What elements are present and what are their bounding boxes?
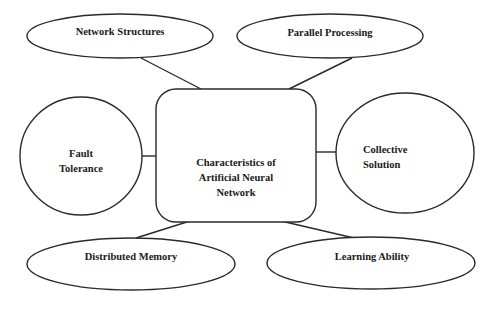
center-title-line-2: Artificial Neural (166, 170, 306, 185)
center-title: Characteristics of Artificial Neural Net… (166, 155, 306, 200)
node-network-structures-label: Network Structures (60, 24, 180, 39)
connector-distributed-memory (136, 221, 190, 238)
fault-tolerance-line-2: Tolerance (41, 161, 121, 176)
node-collective-solution-label: Collective Solution (363, 142, 443, 172)
ann-characteristics-diagram: Network Structures Parallel Processing F… (0, 0, 497, 309)
node-learning-ability-label: Learning Ability (312, 249, 432, 264)
node-distributed-memory-shape (27, 238, 235, 290)
node-parallel-processing-label: Parallel Processing (270, 25, 390, 40)
collective-solution-line-1: Collective (363, 142, 443, 157)
connector-parallel-processing (289, 58, 352, 89)
connector-network-structures (141, 58, 201, 89)
node-fault-tolerance-label: Fault Tolerance (41, 146, 121, 176)
connector-learning-ability (281, 221, 354, 238)
collective-solution-line-2: Solution (363, 157, 443, 172)
center-title-line-1: Characteristics of (166, 155, 306, 170)
center-title-line-3: Network (166, 185, 306, 200)
fault-tolerance-line-1: Fault (41, 146, 121, 161)
node-distributed-memory-label: Distributed Memory (71, 249, 191, 264)
